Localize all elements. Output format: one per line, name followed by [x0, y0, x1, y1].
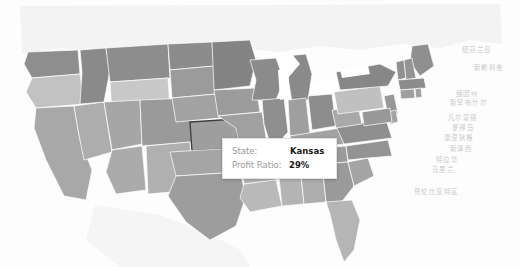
state-NE[interactable]: [172, 94, 220, 122]
geo-label-newfoundland: 纽芬兰岛: [462, 44, 492, 54]
choropleth-map[interactable]: [0, 0, 520, 267]
tooltip-state-value: Kansas: [290, 145, 324, 157]
geo-label-vermont: 凡尔蒙德: [448, 112, 478, 122]
geo-label-delaware: 特拉华: [436, 154, 458, 164]
state-WA[interactable]: [24, 50, 80, 78]
state-SD[interactable]: [170, 66, 216, 98]
state-RI[interactable]: [415, 88, 422, 98]
state-OH[interactable]: [308, 94, 336, 130]
lake-michigan-water: [278, 68, 290, 100]
geo-label-maryland: 马里兰: [432, 164, 454, 174]
tooltip-profit-ratio-label: Profit Ratio:: [232, 159, 288, 171]
state-FL[interactable]: [326, 200, 360, 262]
state-MT[interactable]: [106, 44, 170, 82]
state-ID[interactable]: [80, 48, 110, 104]
state-IN[interactable]: [288, 98, 310, 136]
state-AZ[interactable]: [106, 146, 146, 194]
canada-landmass: [20, 4, 502, 54]
map-canvas[interactable]: 纽芬兰岛 新斯科舍 缅因州 新罕布什尔 凡尔蒙德 罗得岛 康涅狄格 新泽西 特拉…: [0, 0, 520, 267]
tooltip-state-label: State:: [232, 145, 276, 157]
state-CT[interactable]: [400, 89, 415, 99]
state-OR[interactable]: [26, 74, 84, 108]
state-MD[interactable]: [362, 108, 392, 126]
state-MN[interactable]: [212, 40, 256, 90]
tooltip-profit-ratio-value: 29%: [289, 159, 309, 171]
geo-label-dc: 哥伦比亚特区: [414, 186, 458, 196]
geo-label-new-hampshire: 新罕布什尔: [450, 97, 487, 107]
geo-label-new-jersey: 新泽西: [450, 143, 472, 153]
state-MA[interactable]: [398, 78, 426, 90]
state-LA[interactable]: [240, 180, 282, 212]
geo-label-rhode-island: 罗得岛: [452, 122, 474, 132]
map-tooltip: State: Kansas Profit Ratio: 29%: [222, 138, 337, 179]
tooltip-row-profit-ratio: Profit Ratio: 29%: [232, 159, 324, 171]
tooltip-row-state: State: Kansas: [232, 145, 324, 157]
state-ND[interactable]: [168, 42, 214, 70]
geo-label-nova-scotia: 新斯科舍: [474, 62, 504, 72]
state-IA[interactable]: [214, 88, 260, 116]
geo-label-connecticut: 康涅狄格: [444, 132, 474, 142]
